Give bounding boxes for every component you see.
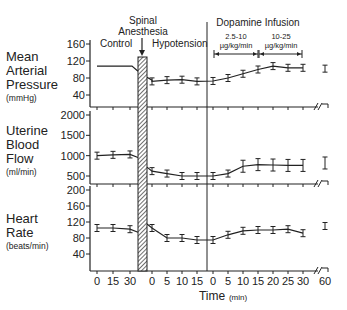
y-axis-unit: (beats/min) [6, 241, 49, 251]
y-axis-label: Uterine [6, 123, 48, 138]
y-tick-label: 160 [67, 38, 85, 50]
y-tick-label: 160 [67, 200, 85, 212]
y-tick-label: 120 [67, 216, 85, 228]
y-axis-unit: (mmHg) [6, 93, 37, 103]
x-tick-label: 25 [282, 275, 294, 287]
x-tick-label: 5 [225, 275, 231, 287]
y-tick-label: 200 [67, 184, 85, 196]
annotation-dose2: 10-25 [271, 32, 290, 41]
x-tick-label: 10 [237, 275, 249, 287]
y-tick-label: 80 [73, 232, 85, 244]
panel-uterine-blood-flow: 200015001000500UterineBloodFlow(ml/min) [6, 109, 328, 187]
y-axis-label: Pressure [6, 77, 58, 92]
y-tick-label: 40 [73, 248, 85, 260]
spinal-anesthesia-bar [138, 57, 147, 271]
annotation-anesthesia: Anesthesia [118, 26, 168, 37]
y-tick-label: 120 [67, 55, 85, 67]
y-tick-label: 1500 [61, 129, 85, 141]
x-tick-label: 20 [267, 275, 279, 287]
y-tick-label: 80 [73, 72, 85, 84]
x-tick-label: 15 [191, 275, 203, 287]
svg-text:µg/kg/min: µg/kg/min [265, 41, 298, 50]
annotation-dopamine: Dopamine Infusion [216, 17, 299, 28]
y-axis-unit: (ml/min) [6, 167, 37, 177]
x-tick-label: 10 [176, 275, 188, 287]
x-tick-label: 5 [164, 275, 170, 287]
x-tick-label: 0 [149, 275, 155, 287]
y-axis-label: Mean [6, 49, 39, 64]
annotation-control: Control [100, 38, 132, 49]
y-axis-label: Arterial [6, 63, 47, 78]
y-axis-label: Flow [6, 151, 34, 166]
annotation-hypotension: Hypotension [152, 38, 208, 49]
chart: 1601208040MeanArterialPressure(mmHg)2000… [0, 0, 347, 310]
x-axis-unit: (min) [229, 293, 248, 302]
y-tick-label: 1000 [61, 150, 85, 162]
x-tick-label: 0 [210, 275, 216, 287]
x-tick-label: 30 [124, 275, 136, 287]
x-tick-label: 15 [252, 275, 264, 287]
y-tick-label: 2000 [61, 109, 85, 121]
y-tick-label: 40 [73, 89, 85, 101]
annotation-dose1: 2.5-10 [225, 32, 246, 41]
y-tick-label: 500 [67, 170, 85, 182]
annotation-spinal: Spinal [129, 15, 157, 26]
x-tick-label: 15 [107, 275, 119, 287]
panel-heart-rate: 2001601208040HeartRate(beats/min) [6, 184, 328, 274]
x-axis-title: Time [199, 289, 226, 303]
x-tick-label: 30 [297, 275, 309, 287]
svg-text:µg/kg/min: µg/kg/min [220, 41, 253, 50]
x-tick-label: 60 [319, 275, 331, 287]
y-axis-label: Heart [6, 211, 38, 226]
y-axis-label: Blood [6, 137, 39, 152]
y-axis-label: Rate [6, 225, 33, 240]
x-tick-label: 0 [94, 275, 100, 287]
